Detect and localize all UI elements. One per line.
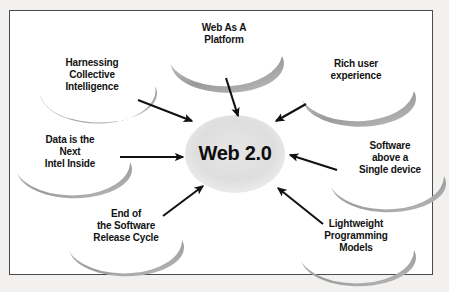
node-rich-user-experience[interactable]: Rich user experience	[310, 58, 402, 82]
arrow-from-web-platform	[226, 78, 238, 116]
node-harnessing-collective-intelligence[interactable]: Harnessing Collective Intelligence	[46, 57, 138, 94]
crescent-lightweight	[300, 250, 416, 286]
center-node-label: Web 2.0	[175, 142, 295, 165]
diagram-canvas: Web As A Platform Harnessing Collective …	[0, 0, 449, 292]
node-end-of-the-software-release-cycle[interactable]: End of the Software Release Cycle	[76, 208, 176, 245]
arrow-from-software-above	[290, 155, 337, 170]
node-lightweight-programming-models[interactable]: Lightweight Programming Models	[308, 218, 404, 255]
node-web-as-a-platform[interactable]: Web As A Platform	[176, 22, 272, 46]
node-data-is-the-next-intel-inside[interactable]: Data is the Next Intel Inside	[24, 134, 116, 171]
arrow-from-rich-user	[276, 104, 306, 121]
arrow-from-harnessing	[138, 100, 192, 121]
node-software-above-a-single-device[interactable]: Software above a Single device	[342, 140, 438, 177]
crescent-end-of-cycle	[68, 240, 184, 276]
crescent-software-above	[330, 176, 446, 212]
crescent-rich-user	[302, 91, 416, 127]
crescent-web-platform	[170, 56, 284, 93]
